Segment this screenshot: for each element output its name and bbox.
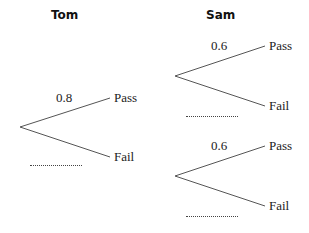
sam-top-fail-label: Fail: [269, 99, 289, 112]
sam-top-fail-probability-blank: [186, 116, 238, 117]
sam-bottom-fail-probability-blank: [186, 216, 238, 217]
sam-top-pass-label: Pass: [269, 39, 292, 52]
sam-bottom-fail-label: Fail: [269, 199, 289, 212]
tom-pass-probability: 0.8: [56, 91, 72, 104]
sam-bottom-pass-label: Pass: [269, 139, 292, 152]
tom-fail-branch: [20, 127, 110, 157]
sam-bottom-fail-branch: [175, 176, 265, 206]
sam-top-pass-probability: 0.6: [211, 39, 227, 52]
sam-top-fail-branch: [175, 76, 265, 106]
tom-pass-label: Pass: [114, 91, 137, 104]
tom-fail-label: Fail: [114, 150, 134, 163]
tree-branches: [0, 0, 309, 233]
sam-bottom-pass-probability: 0.6: [211, 139, 227, 152]
tom-fail-probability-blank: [30, 165, 82, 166]
